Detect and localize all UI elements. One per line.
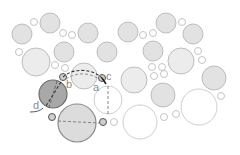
circle-layer bbox=[12, 13, 226, 142]
circle-small bbox=[149, 64, 156, 71]
circle-dark bbox=[39, 80, 67, 108]
circle-small bbox=[140, 32, 147, 39]
circle-small bbox=[199, 57, 206, 64]
circle-small bbox=[195, 48, 202, 55]
circle-shaded bbox=[12, 24, 32, 44]
circle-small bbox=[173, 111, 180, 118]
circle-shaded bbox=[202, 66, 226, 90]
circle-shaded bbox=[78, 23, 98, 43]
circle-small bbox=[161, 71, 168, 78]
circle-shaded bbox=[151, 83, 175, 107]
circle-small bbox=[69, 32, 76, 39]
circle-small bbox=[161, 114, 168, 121]
circle-shaded bbox=[54, 42, 74, 62]
circle-node bbox=[100, 119, 107, 126]
circle-small bbox=[218, 93, 225, 100]
circle-shaded bbox=[143, 41, 163, 61]
circle-small bbox=[159, 64, 166, 71]
circle-shaded bbox=[183, 24, 203, 44]
circle-shaded bbox=[97, 42, 117, 62]
circle-small bbox=[31, 19, 38, 26]
circle-small bbox=[111, 119, 118, 126]
circle-shaded bbox=[40, 13, 60, 33]
label-b: b bbox=[66, 78, 72, 90]
circle-small bbox=[179, 19, 186, 26]
circle-shaded bbox=[156, 13, 176, 33]
circle-small bbox=[151, 73, 158, 80]
circle-packing-diagram: a b c d bbox=[0, 0, 240, 155]
circle-light bbox=[22, 48, 50, 76]
circle-shaded bbox=[118, 22, 138, 42]
circle-white bbox=[123, 105, 157, 139]
label-c: c bbox=[106, 70, 112, 82]
circle-small bbox=[16, 49, 23, 56]
label-a: a bbox=[93, 81, 100, 93]
circle-small bbox=[52, 62, 59, 69]
circle-light bbox=[168, 48, 194, 74]
label-d: d bbox=[33, 99, 39, 111]
circle-small bbox=[62, 65, 69, 72]
circle-light bbox=[121, 67, 147, 93]
circle-small bbox=[60, 30, 67, 37]
circle-small bbox=[150, 30, 157, 37]
circle-white bbox=[181, 89, 217, 125]
circle-node bbox=[49, 114, 56, 121]
